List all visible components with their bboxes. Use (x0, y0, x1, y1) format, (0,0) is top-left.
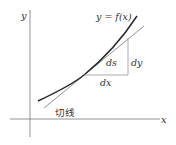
dx-label: dx (100, 77, 112, 88)
ds-label: ds (106, 57, 117, 68)
arc-length-diagram: y x y = f(x) ds dy dx 切线 (0, 0, 176, 145)
x-axis-label: x (161, 114, 167, 125)
function-curve (38, 16, 137, 101)
dy-label: dy (131, 57, 143, 68)
tangent-label: 切线 (55, 107, 75, 118)
y-axis-label: y (20, 10, 27, 21)
curve-label: y = f(x) (95, 11, 132, 22)
